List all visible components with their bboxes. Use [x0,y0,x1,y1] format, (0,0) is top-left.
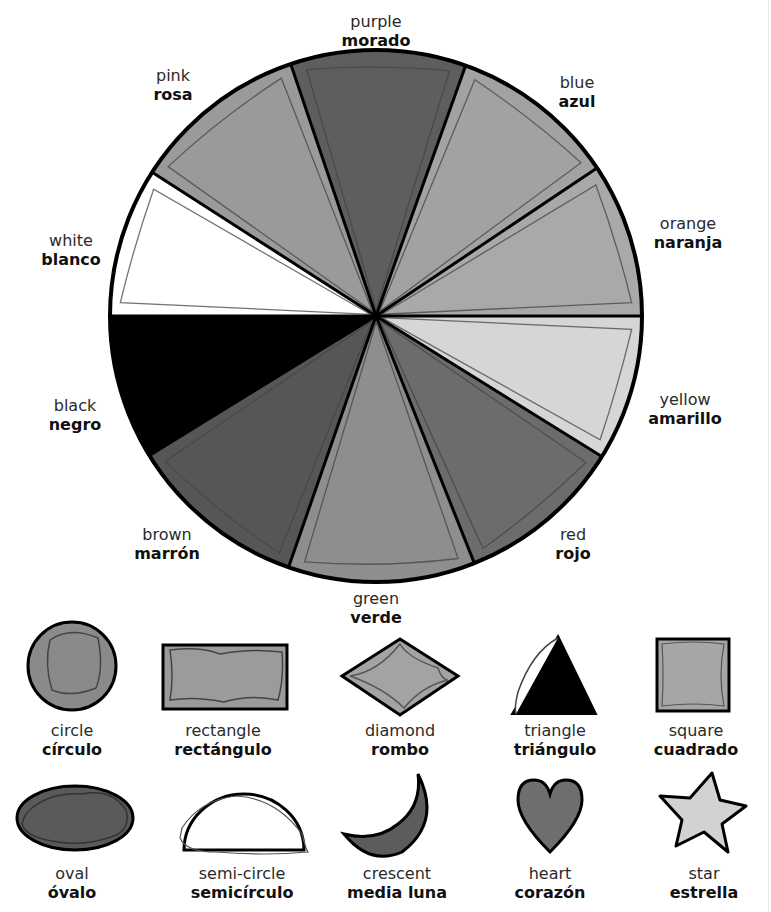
shape-rectangle-spanish: rectángulo [148,740,298,759]
label-purple-english: purple [336,12,416,31]
shape-semi-circle-spanish: semicírculo [167,883,317,902]
shape-semi-circle-english: semi-circle [167,864,317,883]
label-blue-spanish: azul [552,92,602,111]
shape-circle-english: circle [0,721,147,740]
shape-crescent-english: crescent [322,864,472,883]
shape-triangle-english: triangle [480,721,630,740]
shape-label-star: star estrella [629,864,771,902]
shape-diamond-spanish: rombo [325,740,475,759]
label-orange-spanish: naranja [650,233,726,252]
shape-diamond-english: diamond [325,721,475,740]
label-pink-spanish: rosa [148,85,198,104]
label-pink: pink rosa [148,66,198,104]
label-white-english: white [36,231,106,250]
heart-shape-icon [514,774,586,856]
label-white-spanish: blanco [36,250,106,269]
diamond-shape-icon [338,636,462,718]
shape-label-diamond: diamond rombo [325,721,475,759]
label-red: red rojo [548,525,598,563]
label-red-english: red [548,525,598,544]
label-red-spanish: rojo [548,544,598,563]
shape-circle-spanish: círculo [0,740,147,759]
label-orange-english: orange [650,214,726,233]
label-brown: brown marrón [126,525,208,563]
color-wheel [0,0,771,600]
shape-square-english: square [621,721,771,740]
star-shape-icon [658,770,748,854]
label-blue-english: blue [552,73,602,92]
label-green-english: green [336,589,416,608]
shape-heart-spanish: corazón [475,883,625,902]
label-black-spanish: negro [44,415,106,434]
shape-crescent-spanish: media luna [322,883,472,902]
label-white: white blanco [36,231,106,269]
label-purple: purple morado [336,12,416,50]
shape-heart-english: heart [475,864,625,883]
label-blue: blue azul [552,73,602,111]
label-yellow: yellow amarillo [638,390,732,428]
crescent-shape-icon [340,768,436,864]
shape-label-circle: circle círculo [0,721,147,759]
label-green-spanish: verde [336,608,416,627]
triangle-shape-icon [508,632,600,718]
label-black: black negro [44,396,106,434]
label-yellow-spanish: amarillo [638,409,732,428]
shape-oval-spanish: óvalo [0,883,147,902]
label-orange: orange naranja [650,214,726,252]
shape-label-oval: oval óvalo [0,864,147,902]
label-pink-english: pink [148,66,198,85]
label-black-english: black [44,396,106,415]
square-shape-icon [654,636,734,716]
rectangle-shape-icon [160,640,292,712]
circle-shape-icon [20,620,124,716]
semi-circle-shape-icon [176,788,312,858]
shape-rectangle-english: rectangle [148,721,298,740]
shape-oval-english: oval [0,864,147,883]
shape-label-semi-circle: semi-circle semicírculo [167,864,317,902]
shape-label-heart: heart corazón [475,864,625,902]
shape-label-triangle: triangle triángulo [480,721,630,759]
label-yellow-english: yellow [638,390,732,409]
shape-label-crescent: crescent media luna [322,864,472,902]
label-purple-spanish: morado [336,31,416,50]
oval-shape-icon [12,780,138,856]
label-brown-english: brown [126,525,208,544]
label-green: green verde [336,589,416,627]
shape-star-english: star [629,864,771,883]
label-brown-spanish: marrón [126,544,208,563]
shape-triangle-spanish: triángulo [480,740,630,759]
shape-star-spanish: estrella [629,883,771,902]
shape-label-rectangle: rectangle rectángulo [148,721,298,759]
shape-square-spanish: cuadrado [621,740,771,759]
shape-label-square: square cuadrado [621,721,771,759]
